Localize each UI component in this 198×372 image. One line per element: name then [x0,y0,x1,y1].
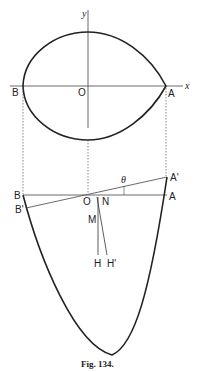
label-h: H [94,258,101,269]
label-n: N [102,196,109,207]
label-y: y [81,8,87,19]
figure-caption: Fig. 134. [81,359,114,369]
label-a-bottom: A [169,191,176,202]
label-h-prime: H' [107,258,116,269]
label-b-top: B [12,87,19,98]
label-b-prime: B' [15,204,24,215]
label-a-top: A [168,88,175,99]
label-x: x [184,80,190,91]
figure-134: y x B O A B B' O N M A A' θ H H' Fig. 13… [0,0,198,372]
waterline-b-prime-a-prime [26,177,167,208]
label-o-bottom: O [83,196,91,207]
label-m: M [88,214,96,225]
label-theta: θ [121,174,126,185]
label-b-bottom: B [14,190,21,201]
label-o-top: O [78,87,86,98]
label-a-prime: A' [170,172,179,183]
